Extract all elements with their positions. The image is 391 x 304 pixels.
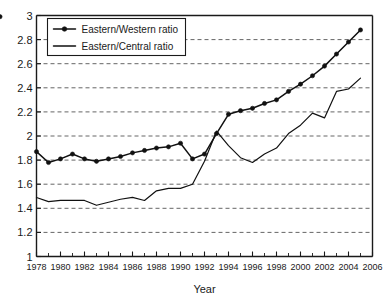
data-point-marker [118,154,122,158]
data-point-marker [166,145,170,149]
data-point-marker [130,151,134,155]
data-point-marker [346,40,350,44]
series-line-eastern-central [37,78,361,205]
ytick-label-2_8: 2.8 [17,34,32,46]
xtick-label-2006: 2006 [362,262,382,272]
data-point-marker [178,141,182,145]
xtick-label-2000: 2000 [290,262,310,272]
data-point-marker [226,112,230,116]
legend-item-eastern-western-swatch-marker [62,27,67,32]
xtick-label-1984: 1984 [98,262,118,272]
data-point-marker [106,157,110,161]
data-point-marker [286,89,290,93]
data-point-marker [154,146,158,150]
xtick-label-1988: 1988 [146,262,166,272]
data-point-marker [262,101,266,105]
ratio-line-chart: Eastern/Western ratioEastern/Central rat… [0,0,391,304]
xtick-label-2004: 2004 [338,262,358,272]
series-eastern-central [37,78,361,205]
ytick-label-3: 3 [26,10,32,22]
data-point-marker [70,152,74,156]
chart-figure: Eastern/Western ratioEastern/Central rat… [0,0,391,304]
data-point-marker [310,74,314,78]
legend-item-eastern-central-label: Eastern/Central ratio [82,41,174,52]
data-point-marker [0,15,2,19]
legend-item-eastern-western-label: Eastern/Western ratio [82,24,179,35]
data-point-marker [142,148,146,152]
xtick-label-1992: 1992 [194,262,214,272]
ytick-label-1_2: 1.2 [17,226,32,238]
data-point-marker [334,52,338,56]
xtick-label-1986: 1986 [122,262,142,272]
xtick-label-1994: 1994 [218,262,238,272]
data-point-marker [202,152,206,156]
data-point-marker [58,157,62,161]
ytick-label-2_6: 2.6 [17,58,32,70]
xtick-label-1982: 1982 [74,262,94,272]
legend-group: Eastern/Western ratioEastern/Central rat… [48,19,186,56]
data-point-marker [358,28,362,32]
data-point-marker [46,160,50,164]
xtick-label-2002: 2002 [314,262,334,272]
ytick-label-2_4: 2.4 [17,82,32,94]
xtick-label-1998: 1998 [266,262,286,272]
data-point-marker [250,106,254,110]
ytick-label-1_6: 1.6 [17,178,32,190]
data-point-marker [82,157,86,161]
xtick-label-1980: 1980 [50,262,70,272]
ytick-label-1_4: 1.4 [17,202,32,214]
xtick-label-1996: 1996 [242,262,262,272]
data-point-marker [274,98,278,102]
ytick-label-1_8: 1.8 [17,154,32,166]
data-point-marker [94,159,98,163]
data-point-marker [190,157,194,161]
xtick-label-1978: 1978 [26,262,46,272]
xtick-label-1990: 1990 [170,262,190,272]
data-point-marker [322,64,326,68]
data-point-marker [298,82,302,86]
x-axis-title: Year [193,283,216,295]
data-point-marker [238,109,242,113]
data-point-marker [34,150,38,154]
ytick-label-2: 2 [26,130,32,142]
ytick-label-2_2: 2.2 [17,106,32,118]
